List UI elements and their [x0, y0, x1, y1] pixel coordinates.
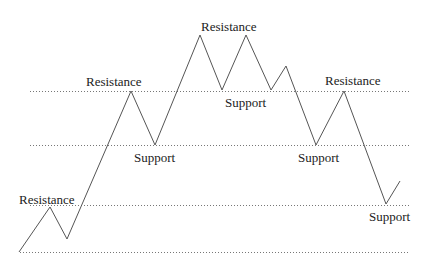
resistance-label: Resistance	[201, 20, 257, 33]
resistance-label: Resistance	[86, 75, 142, 88]
resistance-label: Resistance	[19, 193, 75, 206]
support-label: Support	[225, 96, 266, 109]
support-label: Support	[134, 151, 175, 164]
price-line	[19, 35, 400, 252]
resistance-label: Resistance	[325, 74, 381, 87]
support-label: Support	[369, 210, 410, 223]
support-label: Support	[298, 151, 339, 164]
horizontal-levels	[20, 92, 410, 253]
support-resistance-diagram	[0, 0, 425, 271]
